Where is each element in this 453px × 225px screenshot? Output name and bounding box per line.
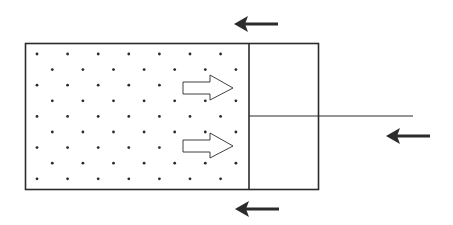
force-arrow-bottom-icon — [235, 201, 279, 217]
gas-particle — [36, 84, 39, 87]
gas-particle — [51, 131, 54, 134]
gas-particle — [173, 99, 176, 102]
force-arrow-top-icon — [234, 16, 278, 32]
gas-particle — [66, 115, 69, 118]
gas-particle — [158, 177, 161, 180]
gas-particle — [173, 162, 176, 165]
gas-particle — [219, 53, 222, 56]
gas-particle — [158, 115, 161, 118]
gas-particle — [97, 146, 100, 149]
gas-particle — [189, 177, 192, 180]
gas-particle — [235, 162, 238, 165]
gas-particle — [112, 162, 115, 165]
gas-particle — [173, 68, 176, 71]
gas-particle — [204, 162, 207, 165]
gas-particle — [82, 131, 85, 134]
gas-particle — [204, 99, 207, 102]
gas-particle — [235, 68, 238, 71]
gas-particles — [36, 53, 238, 181]
gas-particle — [235, 131, 238, 134]
force-arrow-rod-icon — [386, 128, 430, 144]
gas-particle — [143, 99, 146, 102]
gas-particle — [97, 53, 100, 56]
gas-particle — [36, 115, 39, 118]
gas-particle — [158, 84, 161, 87]
gas-particle — [127, 84, 130, 87]
gas-particle — [112, 131, 115, 134]
gas-particle — [36, 53, 39, 56]
gas-particle — [97, 84, 100, 87]
gas-particle — [97, 115, 100, 118]
gas-particle — [219, 115, 222, 118]
gas-particle — [82, 99, 85, 102]
gas-particle — [189, 115, 192, 118]
gas-particle — [189, 53, 192, 56]
gas-particle — [36, 146, 39, 149]
pressure-arrow-upper-icon — [183, 75, 233, 100]
gas-particle — [204, 131, 207, 134]
gas-particle — [127, 177, 130, 180]
gas-particle — [127, 115, 130, 118]
gas-particle — [51, 162, 54, 165]
gas-particle — [51, 68, 54, 71]
gas-particle — [158, 146, 161, 149]
gas-particle — [158, 53, 161, 56]
gas-particle — [36, 177, 39, 180]
gas-particle — [97, 177, 100, 180]
gas-particle — [235, 99, 238, 102]
gas-particle — [204, 68, 207, 71]
gas-particle — [173, 131, 176, 134]
gas-particle — [143, 131, 146, 134]
gas-particle — [82, 162, 85, 165]
gas-particle — [66, 177, 69, 180]
piston-diagram — [0, 0, 453, 225]
gas-particle — [219, 177, 222, 180]
gas-particle — [112, 68, 115, 71]
gas-particle — [66, 84, 69, 87]
gas-particle — [82, 68, 85, 71]
gas-particle — [66, 53, 69, 56]
gas-particle — [66, 146, 69, 149]
gas-particle — [127, 53, 130, 56]
gas-particle — [51, 99, 54, 102]
gas-particle — [143, 162, 146, 165]
gas-particle — [127, 146, 130, 149]
pressure-arrow-lower-icon — [183, 133, 233, 158]
gas-particle — [143, 68, 146, 71]
gas-particle — [112, 99, 115, 102]
